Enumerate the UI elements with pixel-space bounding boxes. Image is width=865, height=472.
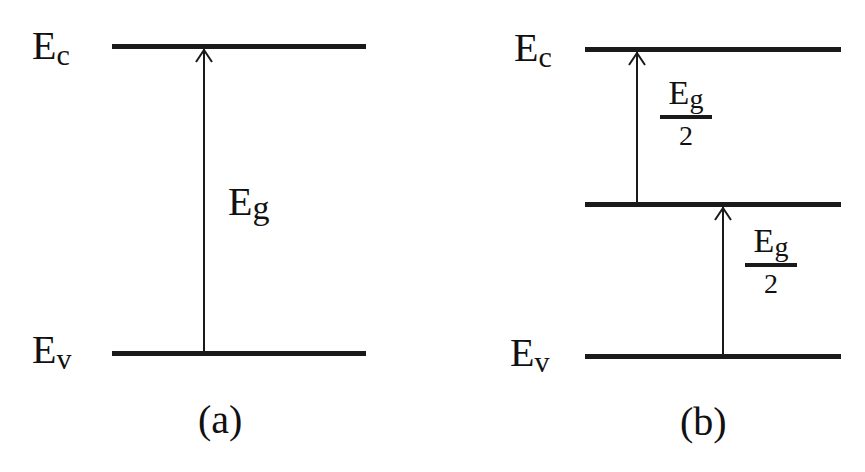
arrowhead-up-icon xyxy=(713,206,733,222)
eg-label-a: Eg xyxy=(228,182,269,225)
lower-transition-arrow-shaft xyxy=(722,206,724,355)
fraction-bar xyxy=(745,263,797,267)
caption-a: (a) xyxy=(198,400,242,440)
ev-label-a: Ev xyxy=(32,330,71,374)
arrowhead-up-icon xyxy=(194,48,214,64)
conduction-band-level-a xyxy=(112,44,366,49)
ec-label-b: Ec xyxy=(514,28,552,72)
eg-half-label-lower: Eg 2 xyxy=(745,224,797,298)
ec-label-a: Ec xyxy=(32,26,70,70)
bandgap-arrow-shaft-a xyxy=(203,48,205,352)
conduction-band-level-b xyxy=(585,47,841,52)
arrowhead-up-icon xyxy=(627,51,647,67)
upper-transition-arrow-shaft xyxy=(636,51,638,203)
fraction-bar xyxy=(660,115,712,119)
caption-b: (b) xyxy=(680,402,727,442)
eg-half-label-upper: Eg 2 xyxy=(660,76,712,150)
ev-label-b: Ev xyxy=(510,333,549,377)
valence-band-level-b xyxy=(585,354,841,359)
valence-band-level-a xyxy=(112,351,366,356)
